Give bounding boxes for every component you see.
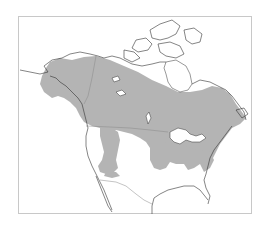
range-map	[0, 0, 266, 230]
species-range	[40, 56, 246, 178]
